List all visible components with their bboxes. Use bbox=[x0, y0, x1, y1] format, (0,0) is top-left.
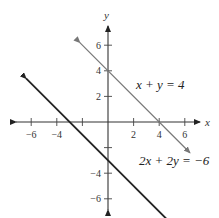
x-tick-label: −6 bbox=[26, 129, 37, 140]
y-tick-label: 2 bbox=[96, 91, 101, 102]
y-tick-label: −6 bbox=[90, 193, 101, 204]
x-tick-label: 6 bbox=[182, 129, 187, 140]
x-tick-label: 2 bbox=[131, 129, 136, 140]
x-tick-label: 4 bbox=[157, 129, 162, 140]
x-ticks: −6−4246 bbox=[26, 118, 187, 140]
x-axis-label: x bbox=[204, 116, 210, 128]
y-tick-label: −4 bbox=[90, 168, 101, 179]
x-tick-label: −4 bbox=[51, 129, 62, 140]
y-axis-label: y bbox=[103, 9, 109, 21]
coordinate-plane: −6−4246 −6−4246 x y x + y = 4 2x + 2y = … bbox=[0, 0, 219, 218]
equation-label-2: 2x + 2y = −6 bbox=[139, 153, 210, 168]
y-tick-label: 6 bbox=[96, 40, 101, 51]
y-tick-label: 4 bbox=[96, 65, 101, 76]
equation-label-1: x + y = 4 bbox=[135, 77, 185, 92]
